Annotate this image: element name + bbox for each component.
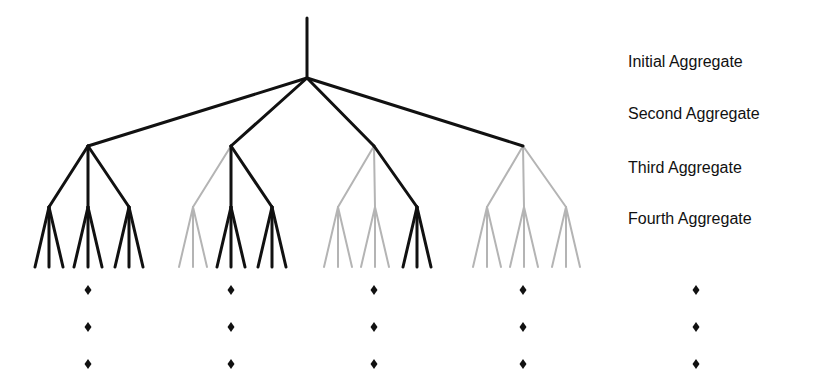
- ellipsis-diamond-icon: [85, 359, 92, 369]
- third-to-leaf-edge: [552, 207, 566, 267]
- level-label-second: Second Aggregate: [628, 105, 760, 123]
- third-to-leaf-edge: [35, 207, 49, 267]
- third-to-leaf-edge: [338, 207, 352, 267]
- level-label-third: Third Aggregate: [628, 159, 742, 177]
- third-to-leaf-edge: [217, 207, 231, 267]
- third-to-leaf-edge: [510, 207, 524, 267]
- third-to-leaf-edge: [231, 207, 245, 267]
- second-to-third-edge: [374, 146, 417, 207]
- ellipsis-diamond-icon: [693, 322, 700, 332]
- third-to-leaf-edge: [129, 207, 143, 267]
- third-to-leaf-edge: [88, 207, 102, 267]
- third-to-leaf-edge: [115, 207, 129, 267]
- third-to-leaf-edge: [193, 207, 207, 267]
- third-to-leaf-edge: [179, 207, 193, 267]
- root-to-second-edge: [88, 78, 307, 146]
- second-to-third-edge: [523, 146, 566, 207]
- ellipsis-diamond-icon: [520, 285, 527, 295]
- ellipsis-diamond-icon: [85, 322, 92, 332]
- ellipsis-diamond-icon: [371, 285, 378, 295]
- ellipsis-diamond-icon: [85, 285, 92, 295]
- ellipsis-diamond-icon: [228, 285, 235, 295]
- ellipsis-diamond-icon: [693, 285, 700, 295]
- second-to-third-edge: [374, 146, 375, 207]
- second-to-third-edge: [487, 146, 523, 207]
- ellipsis-diamond-icon: [228, 322, 235, 332]
- ellipsis-diamond-icon: [371, 322, 378, 332]
- level-label-fourth: Fourth Aggregate: [628, 210, 752, 228]
- root-to-second-edge: [231, 78, 307, 146]
- third-to-leaf-edge: [49, 207, 63, 267]
- ellipsis-diamond-icon: [228, 359, 235, 369]
- ellipsis-diamond-icon: [520, 359, 527, 369]
- ellipsis-diamond-icon: [371, 359, 378, 369]
- second-to-third-edge: [49, 146, 88, 207]
- second-to-third-edge: [523, 146, 524, 207]
- third-to-leaf-edge: [473, 207, 487, 267]
- third-to-leaf-edge: [566, 207, 580, 267]
- third-to-leaf-edge: [74, 207, 88, 267]
- third-to-leaf-edge: [375, 207, 389, 267]
- second-to-third-edge: [338, 146, 374, 207]
- third-to-leaf-edge: [487, 207, 501, 267]
- third-to-leaf-edge: [403, 207, 417, 267]
- third-to-leaf-edge: [324, 207, 338, 267]
- third-to-leaf-edge: [361, 207, 375, 267]
- second-to-third-edge: [88, 146, 129, 207]
- ellipsis-diamond-icon: [693, 359, 700, 369]
- second-to-third-edge: [231, 146, 272, 207]
- ellipsis-diamond-icon: [520, 322, 527, 332]
- third-to-leaf-edge: [417, 207, 431, 267]
- third-to-leaf-edge: [258, 207, 272, 267]
- third-to-leaf-edge: [524, 207, 538, 267]
- level-label-initial: Initial Aggregate: [628, 53, 743, 71]
- second-to-third-edge: [193, 146, 231, 207]
- third-to-leaf-edge: [272, 207, 286, 267]
